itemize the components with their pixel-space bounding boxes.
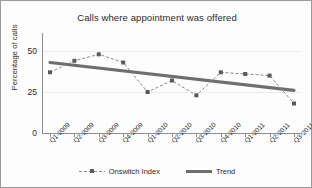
dashed-line-icon xyxy=(79,168,105,176)
legend-label-trend: Trend xyxy=(216,167,235,176)
chart-container: Calls where appointment was offered Perc… xyxy=(0,0,312,188)
y-tick-label-0: 0 xyxy=(13,128,37,138)
gridline-25 xyxy=(43,92,301,93)
plot-area xyxy=(43,35,301,133)
legend-label-onswitch-index: Onswitch Index xyxy=(109,167,160,176)
solid-line-icon xyxy=(186,168,212,176)
y-tick-label-25: 25 xyxy=(13,87,37,97)
gridline-50 xyxy=(43,51,301,52)
chart-legend: Onswitch Index Trend xyxy=(1,167,312,176)
y-tick-label-50: 50 xyxy=(13,46,37,56)
legend-item-onswitch-index: Onswitch Index xyxy=(79,167,160,176)
chart-title: Calls where appointment was offered xyxy=(1,12,312,23)
legend-item-trend: Trend xyxy=(186,167,235,176)
y-axis-line xyxy=(42,33,43,134)
